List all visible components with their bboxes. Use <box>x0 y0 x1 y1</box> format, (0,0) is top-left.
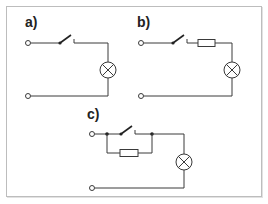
wire <box>152 134 184 154</box>
terminal-icon <box>139 94 144 99</box>
terminal-icon <box>90 186 95 191</box>
wire <box>31 78 108 96</box>
wire <box>215 43 232 62</box>
panel-a-label: a) <box>25 14 37 30</box>
terminal-icon <box>90 132 95 137</box>
panel-b: b) <box>137 14 240 99</box>
terminal-icon <box>139 41 144 46</box>
switch-icon <box>171 35 187 45</box>
lamp-icon <box>224 62 240 78</box>
wire <box>74 43 108 62</box>
wire <box>138 134 152 153</box>
switch-icon <box>119 126 135 136</box>
circuit-diagram: a) b) <box>0 0 268 204</box>
switch-icon <box>58 35 74 45</box>
panel-c: c) <box>87 106 192 191</box>
panel-b-label: b) <box>137 14 150 30</box>
panel-c-label: c) <box>87 106 99 122</box>
wire <box>107 134 120 153</box>
lamp-icon <box>100 62 116 78</box>
lamp-icon <box>176 154 192 170</box>
wire <box>144 78 232 96</box>
resistor-icon <box>198 40 215 47</box>
panel-a: a) <box>25 14 116 99</box>
resistor-icon <box>120 150 138 157</box>
wire <box>95 170 184 188</box>
terminal-icon <box>26 94 31 99</box>
terminal-icon <box>26 41 31 46</box>
